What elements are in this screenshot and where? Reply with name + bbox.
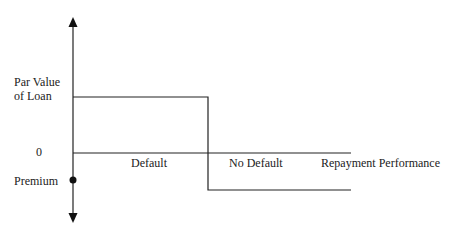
premium-label: Premium: [14, 174, 58, 188]
payoff-line: [73, 97, 351, 190]
no-default-label: No Default: [229, 156, 283, 170]
par-value-label-1: Par Value: [14, 75, 60, 89]
zero-label: 0: [36, 145, 42, 159]
x-axis-title: Repayment Performance: [321, 156, 440, 170]
default-label: Default: [131, 156, 167, 170]
par-value-label-2: of Loan: [14, 89, 52, 103]
arrow-down-icon: [69, 213, 78, 223]
arrow-up-icon: [69, 17, 78, 27]
premium-dot: [70, 177, 77, 184]
payoff-diagram: [0, 0, 461, 236]
